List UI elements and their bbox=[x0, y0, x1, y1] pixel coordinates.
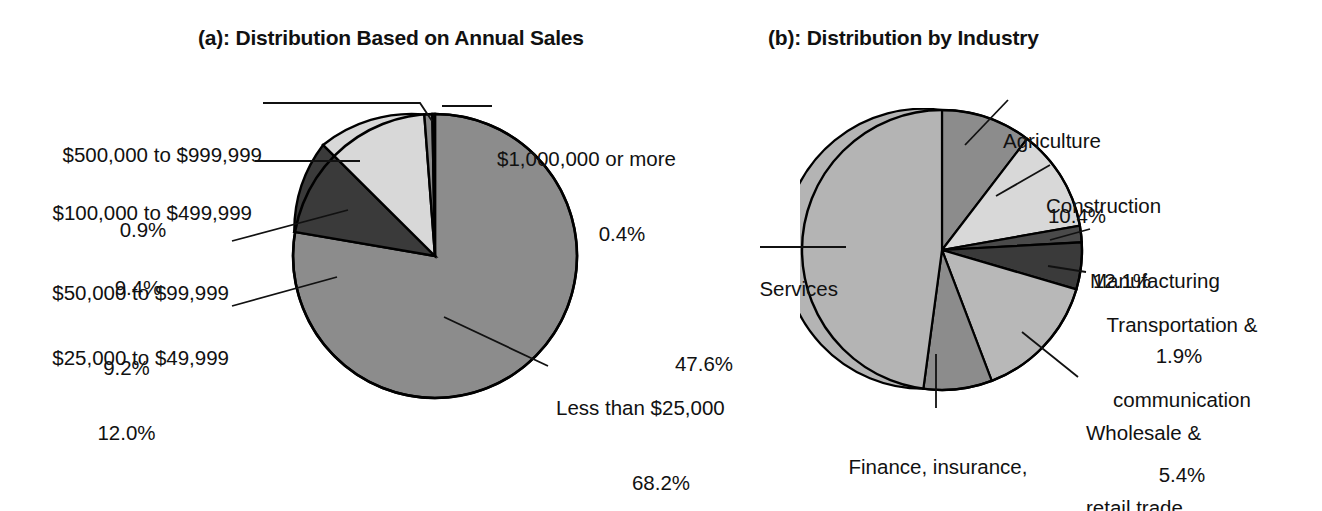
callout-wholesale-name-line1: Wholesale & bbox=[1086, 420, 1286, 445]
callout-100000-499999-name: $100,000 to $499,999 bbox=[24, 200, 252, 225]
callout-services-pct: 47.6% bbox=[570, 351, 838, 376]
callout-25000-49999: $25,000 to $49,999 12.0% bbox=[24, 295, 229, 495]
callout-wholesale-name-line2: retail trade bbox=[1086, 495, 1286, 511]
panel-b-title: (b): Distribution by Industry bbox=[768, 26, 1039, 50]
callout-finance-name-line1: Finance, insurance, bbox=[818, 454, 1058, 479]
figure-two-pie-charts: (a): Distribution Based on Annual Sales bbox=[0, 0, 1322, 511]
callout-transportation-name-line1: Transportation & bbox=[1082, 312, 1282, 337]
callout-services-name: Services bbox=[570, 276, 838, 301]
callout-1000000-or-more-name: $1,000,000 or more bbox=[497, 146, 747, 171]
panel-b: (b): Distribution by Industry bbox=[760, 0, 1322, 511]
callout-25000-49999-name: $25,000 to $49,999 bbox=[24, 345, 229, 370]
callout-construction-name: Construction bbox=[1046, 193, 1256, 218]
callout-finance-insurance-real-estate: Finance, insurance, & real estate 7.9% bbox=[818, 404, 1058, 511]
callout-wholesale-retail-trade: Wholesale & retail trade 14.7% bbox=[1086, 370, 1286, 511]
callout-25000-49999-pct: 12.0% bbox=[24, 420, 229, 445]
callout-services: Services 47.6% bbox=[570, 226, 838, 426]
panel-a-title: (a): Distribution Based on Annual Sales bbox=[198, 26, 584, 50]
callout-less-than-25000-pct: 68.2% bbox=[556, 470, 766, 495]
